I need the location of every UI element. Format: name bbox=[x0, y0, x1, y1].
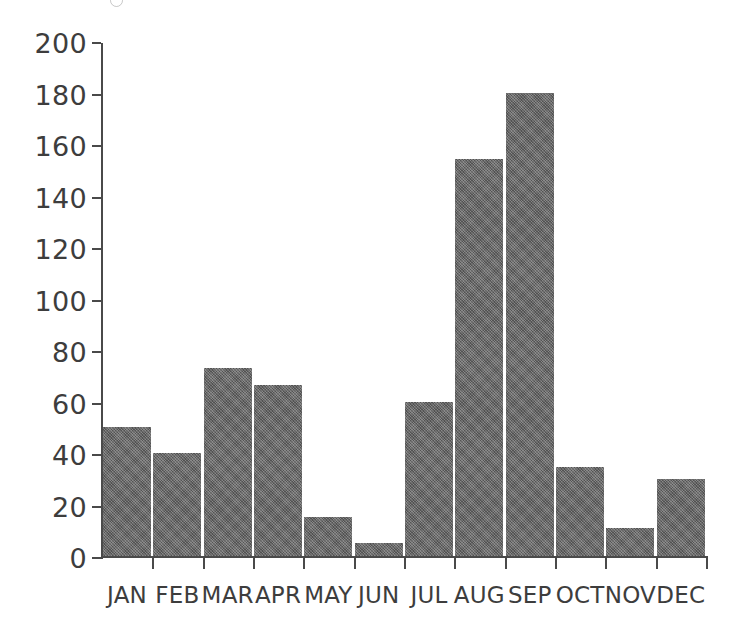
y-axis-tick-label: 20 bbox=[52, 493, 101, 520]
x-axis-tick bbox=[706, 558, 708, 569]
x-axis-tick bbox=[454, 558, 456, 569]
x-axis-tick-label: JUN bbox=[358, 584, 399, 607]
y-axis-tick-label: 100 bbox=[35, 287, 101, 314]
bar bbox=[304, 517, 352, 556]
x-axis-tick bbox=[303, 558, 305, 569]
y-axis-tick-label: 60 bbox=[52, 390, 101, 417]
plot-area: 020406080100120140160180200 bbox=[101, 43, 707, 558]
bar bbox=[455, 159, 503, 556]
y-axis-tick-label: 80 bbox=[52, 339, 101, 366]
x-axis-tick bbox=[253, 558, 255, 569]
bar bbox=[556, 467, 604, 556]
bar-series bbox=[103, 43, 707, 556]
x-axis-tick-label: DEC bbox=[656, 584, 705, 607]
x-axis-tick-label: FEB bbox=[155, 584, 199, 607]
y-axis-tick-label: 160 bbox=[35, 133, 101, 160]
bar bbox=[405, 402, 453, 557]
x-axis-tick bbox=[505, 558, 507, 569]
y-axis-tick-label: 140 bbox=[35, 184, 101, 211]
x-axis-tick-label: JAN bbox=[107, 584, 147, 607]
bar bbox=[254, 385, 302, 556]
y-axis-tick-label: 40 bbox=[52, 442, 101, 469]
y-axis-tick-label: 200 bbox=[35, 30, 101, 57]
x-axis-tick bbox=[404, 558, 406, 569]
x-axis-tick bbox=[354, 558, 356, 569]
x-axis-tick-label: SEP bbox=[508, 584, 552, 607]
x-axis-tick-label: APR bbox=[255, 584, 301, 607]
bar bbox=[355, 543, 403, 556]
bar-chart: 020406080100120140160180200 JANFEBMARAPR… bbox=[0, 0, 740, 636]
bar bbox=[657, 479, 705, 556]
x-axis-tick bbox=[152, 558, 154, 569]
x-axis-tick bbox=[203, 558, 205, 569]
bar bbox=[506, 93, 554, 557]
y-axis-tick-label: 180 bbox=[35, 81, 101, 108]
x-axis-tick-label: MAY bbox=[304, 584, 352, 607]
bar bbox=[153, 453, 201, 556]
x-axis-tick bbox=[656, 558, 658, 569]
x-axis-tick-label: JUL bbox=[411, 584, 448, 607]
y-axis-tick-label: 0 bbox=[70, 545, 101, 572]
x-axis-tick-label: MAR bbox=[202, 584, 254, 607]
y-axis-tick-label: 120 bbox=[35, 236, 101, 263]
bar bbox=[606, 528, 654, 556]
x-axis-tick-label: OCT bbox=[556, 584, 605, 607]
x-axis-tick-label: NOV bbox=[605, 584, 656, 607]
x-axis-tick-label: AUG bbox=[454, 584, 505, 607]
bar bbox=[204, 368, 252, 556]
x-axis-tick bbox=[605, 558, 607, 569]
bar bbox=[103, 427, 151, 556]
scan-artifact-descender bbox=[110, 0, 123, 7]
x-axis-tick bbox=[555, 558, 557, 569]
